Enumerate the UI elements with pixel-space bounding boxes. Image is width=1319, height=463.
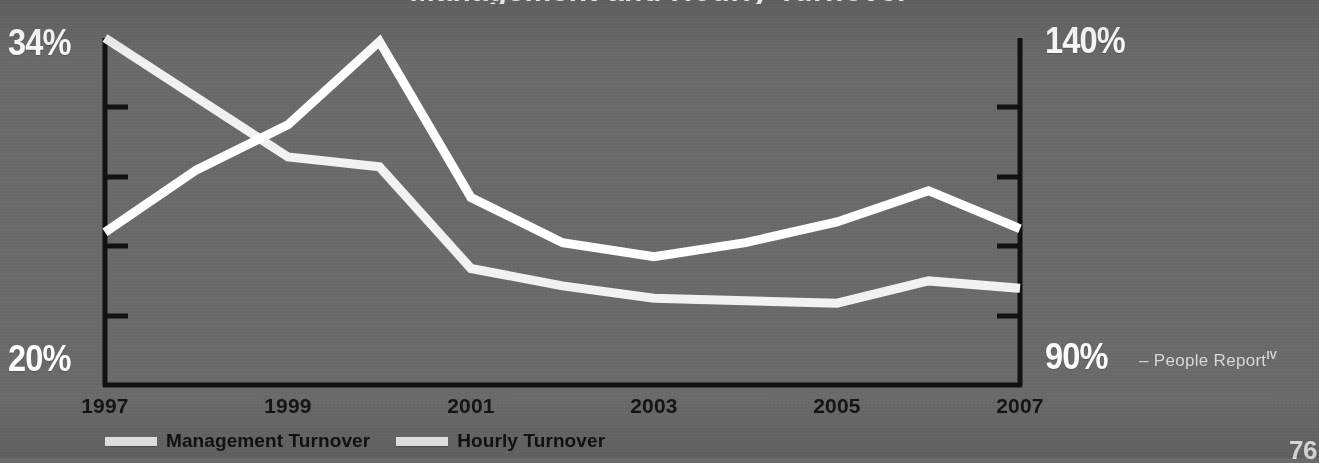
- series-line-hourly-turnover: [105, 42, 1020, 257]
- chart-legend: Management TurnoverHourly Turnover: [105, 430, 605, 452]
- left-axis-ticks: [105, 107, 128, 316]
- legend-swatch-icon: [105, 437, 157, 446]
- left-axis-min-label: 20%: [8, 340, 71, 377]
- axis-frame: [103, 38, 1022, 386]
- attribution-superscript: IV: [1266, 349, 1276, 361]
- source-attribution: – People ReportIV: [1139, 349, 1277, 371]
- x-axis-label-2001: 2001: [447, 394, 495, 418]
- legend-swatch-icon: [396, 437, 448, 446]
- legend-item-hourly-turnover[interactable]: Hourly Turnover: [396, 430, 605, 452]
- legend-label: Management Turnover: [166, 430, 370, 452]
- x-axis-label-1999: 1999: [264, 394, 312, 418]
- right-axis-min-label: 90%: [1045, 338, 1108, 375]
- legend-label: Hourly Turnover: [457, 430, 605, 452]
- attribution-dash: –: [1139, 351, 1149, 370]
- x-axis-label-1997: 1997: [81, 394, 129, 418]
- series-line-management-turnover: [105, 38, 1020, 303]
- x-axis-label-2007: 2007: [996, 394, 1044, 418]
- x-axis-label-2003: 2003: [630, 394, 678, 418]
- right-axis-max-label: 140%: [1045, 22, 1125, 59]
- x-axis-label-2005: 2005: [813, 394, 861, 418]
- left-axis-max-label: 34%: [8, 24, 71, 61]
- legend-item-management-turnover[interactable]: Management Turnover: [105, 430, 370, 452]
- attribution-text: People Report: [1154, 351, 1267, 370]
- page-number: 76: [1289, 435, 1317, 463]
- data-series-layer: [105, 38, 1020, 303]
